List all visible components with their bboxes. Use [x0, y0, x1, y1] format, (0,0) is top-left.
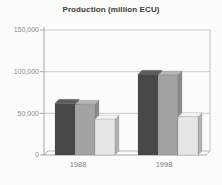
- bar-1988-series-dark-top: [55, 99, 79, 103]
- bar-1998-series-medium-top: [158, 71, 182, 75]
- plot-area: 050,000100,000150,00019881998: [0, 0, 222, 185]
- bar-chart: Production (million ECU) 050,000100,0001…: [0, 0, 222, 185]
- x-category-label: 1988: [70, 160, 87, 169]
- y-tick-label: 150,000: [14, 26, 39, 33]
- floor-corner-right: [206, 151, 210, 155]
- bar-1988-series-light-front: [95, 119, 115, 155]
- y-tick-label: 100,000: [14, 68, 39, 75]
- bar-1988-series-medium-top: [75, 100, 99, 104]
- y-tick-label: 0: [35, 151, 39, 158]
- floor-corner-left: [44, 151, 48, 155]
- bar-1998-series-light-front: [178, 117, 198, 155]
- bar-1998-series-light-side: [198, 113, 202, 155]
- bar-1988-series-light-top: [95, 115, 119, 119]
- bar-1998-series-dark-front: [138, 74, 158, 155]
- y-tick-label: 50,000: [18, 110, 40, 117]
- bar-1998-series-medium-front: [158, 75, 178, 155]
- bar-1988-series-dark-front: [55, 103, 75, 155]
- x-category-label: 1998: [156, 160, 173, 169]
- bar-1998-series-light-top: [178, 113, 202, 117]
- bar-1988-series-medium-front: [75, 104, 95, 155]
- bar-1988-series-light-side: [115, 115, 119, 155]
- bar-1998-series-dark-top: [138, 70, 162, 74]
